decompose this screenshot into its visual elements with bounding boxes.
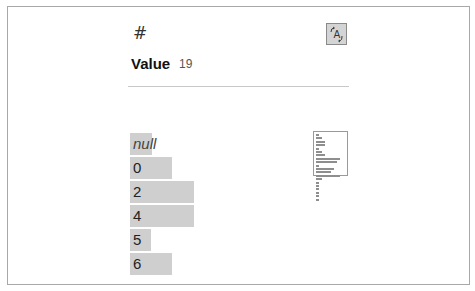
minimap-bar [316, 188, 319, 190]
minimap-bar [316, 195, 319, 197]
sort-toggle-icon: A [328, 26, 345, 43]
column-count: 19 [179, 57, 192, 71]
svg-text:A: A [334, 29, 341, 40]
minimap-bar [316, 175, 340, 177]
histogram-label: 0 [133, 159, 141, 177]
minimap-bar [316, 151, 322, 153]
minimap-bar [316, 141, 325, 143]
sort-toggle-button[interactable]: A [326, 23, 347, 45]
column-panel [7, 6, 470, 285]
minimap-bar [316, 199, 319, 201]
number-type-icon: # [133, 24, 147, 42]
histogram-minimap[interactable] [313, 131, 349, 203]
minimap-bar [316, 161, 337, 163]
column-name: Value [131, 55, 170, 72]
minimap-bar [316, 165, 319, 167]
minimap-bar [316, 134, 319, 136]
histogram-label: 4 [133, 207, 141, 225]
minimap-bar [316, 158, 340, 160]
minimap-bar [316, 192, 319, 194]
minimap-bar [316, 148, 319, 150]
minimap-bar [316, 137, 322, 139]
minimap-bar [316, 154, 325, 156]
histogram-label: null [133, 135, 156, 153]
header-divider [128, 86, 349, 87]
histogram-label: 2 [133, 183, 141, 201]
histogram-label: 5 [133, 231, 141, 249]
minimap-bar [316, 144, 325, 146]
minimap-bar [316, 182, 319, 184]
minimap-bar [316, 185, 319, 187]
minimap-bar [316, 178, 322, 180]
histogram-label: 6 [133, 255, 141, 273]
minimap-bar [316, 171, 331, 173]
minimap-bar [316, 168, 334, 170]
